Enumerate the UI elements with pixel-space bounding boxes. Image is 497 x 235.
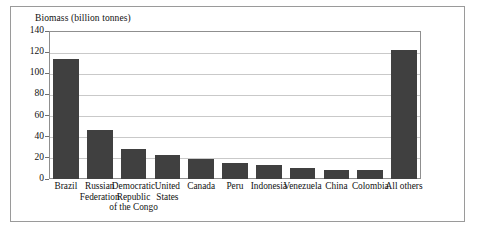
bar [188,159,214,179]
y-axis-tick-label: 60 [35,111,45,121]
bar-slot [117,31,151,179]
chart-figure: Biomass (billion tonnes) 020406080100120… [10,6,465,222]
bar-slot [184,31,218,179]
bar [290,168,316,179]
bar-slot [286,31,320,179]
y-axis-tick-label: 80 [35,90,45,100]
bar [391,50,417,179]
x-axis-tick-label: All others [372,181,436,192]
bar-series [49,31,421,179]
chart-title: Biomass (billion tonnes) [35,13,131,23]
bar [53,59,79,180]
y-axis-tick-label: 140 [30,26,44,36]
bar-slot [353,31,387,179]
bar-slot [218,31,252,179]
bar-slot [320,31,354,179]
x-axis-tick-labels: BrazilRussian FederationDemocratic Repub… [49,181,421,221]
y-axis-tick-label: 120 [30,47,44,57]
bar [87,130,113,179]
bar-slot [83,31,117,179]
bar [256,165,282,179]
bar-slot [150,31,184,179]
bar-slot [387,31,421,179]
y-axis-tick-label: 40 [35,132,45,142]
y-axis-tick-label: 100 [30,69,44,79]
y-axis-tick-labels: 020406080100120140 [11,31,44,179]
bar [357,170,383,180]
bar-slot [49,31,83,179]
bar-slot [252,31,286,179]
bar [121,149,147,179]
bar [155,155,181,179]
bar [324,170,350,180]
y-axis-tick-label: 20 [35,153,45,163]
bar [222,163,248,179]
